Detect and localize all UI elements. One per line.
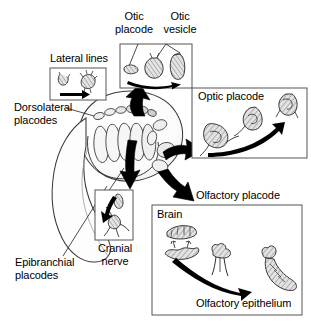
cranial-nerve-stage-1 (114, 194, 123, 208)
label-otic-vesicle: Otic vesicle (156, 10, 204, 35)
otic-panel (120, 44, 192, 90)
label-otic-placode: Otic placode (108, 10, 160, 35)
label-brain: Brain (157, 208, 182, 221)
otic-stage-3 (170, 53, 185, 79)
arrow-to-olfactory (158, 169, 194, 201)
label-optic-placode: Optic placode (198, 90, 264, 103)
label-dorsolateral-placodes: Dorsolateral placodes (14, 101, 90, 126)
cranial-nerve-panel (95, 190, 133, 240)
label-olfactory-epithelium: Olfactory epithelium (196, 297, 291, 310)
label-olfactory-placode: Olfactory placode (196, 189, 280, 202)
placode-diagram: Otic placode Otic vesicle Lateral lines … (0, 0, 311, 325)
label-epibranchial-placodes: Epibranchial placodes (15, 256, 97, 281)
label-cranial-nerve: Cranial nerve (88, 242, 142, 267)
otic-stage-1 (124, 65, 138, 74)
label-lateral-lines: Lateral lines (44, 52, 114, 65)
lateral-lines-panel (50, 68, 106, 100)
